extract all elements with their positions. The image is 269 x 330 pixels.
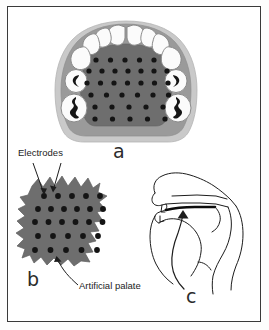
electrode-dot <box>162 116 167 121</box>
electrode-dot <box>125 68 130 73</box>
tooth-premolar2-left <box>65 70 87 93</box>
electrode-dot <box>160 104 165 109</box>
electrode-dot <box>108 57 113 62</box>
electrode-dot <box>86 68 91 73</box>
electrode-dot <box>125 80 130 85</box>
electrodes-label: Electrodes <box>18 148 63 158</box>
electrode-dot <box>59 219 65 225</box>
electrode-dot <box>145 116 150 121</box>
electrode-dot <box>32 219 38 225</box>
artificial-palate-in-mouth <box>166 207 215 210</box>
electrode-dot <box>151 57 156 62</box>
panel-label-c: c <box>186 287 196 306</box>
artificial-palate-label: Artificial palate <box>79 281 141 291</box>
panel-label-b: b <box>27 270 39 289</box>
electrode-dot <box>98 80 103 85</box>
electrode-dot <box>122 57 127 62</box>
panel-b-group <box>16 163 107 285</box>
electrode-dot <box>32 247 38 253</box>
artificial-palate-arrowhead-c <box>178 210 189 219</box>
mandible-outline <box>150 216 173 284</box>
electrode-dot <box>46 219 52 225</box>
electrode-dot <box>119 92 124 97</box>
electrode-dot <box>138 80 143 85</box>
electrode-dot <box>100 206 106 212</box>
electrode-dot <box>137 57 142 62</box>
electrode-dot <box>111 80 116 85</box>
panel-label-a: a <box>113 142 125 161</box>
electrode-dot <box>110 116 115 121</box>
electrode-dot <box>100 219 106 225</box>
electrode-dot <box>151 68 156 73</box>
electrode-dot <box>138 68 143 73</box>
pharynx-back-wall <box>212 207 231 294</box>
electrode-dot <box>112 68 117 73</box>
electrode-dot <box>50 233 56 239</box>
panel-c-group <box>150 173 243 294</box>
electrode-dot <box>143 104 148 109</box>
electrode-dot <box>80 233 86 239</box>
panel-a-group <box>55 21 197 142</box>
electrode-dot <box>127 116 132 121</box>
electrode-dot <box>35 233 41 239</box>
larynx-outline <box>198 262 211 270</box>
electrode-dot <box>84 80 89 85</box>
electrode-dot <box>48 206 54 212</box>
electrode-dot <box>92 116 97 121</box>
electrode-dot <box>61 206 67 212</box>
artificial-palate-arrow-c <box>172 214 184 289</box>
electrode-dot <box>104 92 109 97</box>
figure-root: Electrodes Artificial palate a b c <box>0 0 269 330</box>
soft-palate-velum <box>212 207 220 232</box>
electrode-dot <box>97 193 103 199</box>
electrode-dot <box>150 92 155 97</box>
electrode-dot <box>92 104 97 109</box>
electrode-dot <box>164 68 169 73</box>
electrode-dot <box>74 206 80 212</box>
electrode-dot <box>94 247 100 253</box>
face-profile-outline <box>154 173 236 206</box>
electrode-dot <box>126 104 131 109</box>
electrode-dot <box>35 206 41 212</box>
electrode-dot <box>99 68 104 73</box>
electrode-dot <box>93 57 98 62</box>
nasal-cavity-floor <box>172 195 227 199</box>
electrode-dot <box>65 233 71 239</box>
electrode-dot <box>55 193 61 199</box>
electrode-dot <box>166 92 171 97</box>
neck-back-outline <box>231 206 243 290</box>
electrode-dot <box>83 193 89 199</box>
electrode-dot <box>165 80 170 85</box>
electrode-dot <box>63 247 69 253</box>
electrode-dot <box>73 219 79 225</box>
electrode-dot <box>79 247 85 253</box>
electrode-dot <box>69 193 75 199</box>
electrode-dot <box>95 233 101 239</box>
electrode-dot <box>48 247 54 253</box>
electrode-dot <box>87 206 93 212</box>
electrode-dot <box>152 80 157 85</box>
electrode-dot <box>86 219 92 225</box>
electrode-dot <box>135 92 140 97</box>
electrode-dot <box>109 104 114 109</box>
electrode-dot <box>88 92 93 97</box>
